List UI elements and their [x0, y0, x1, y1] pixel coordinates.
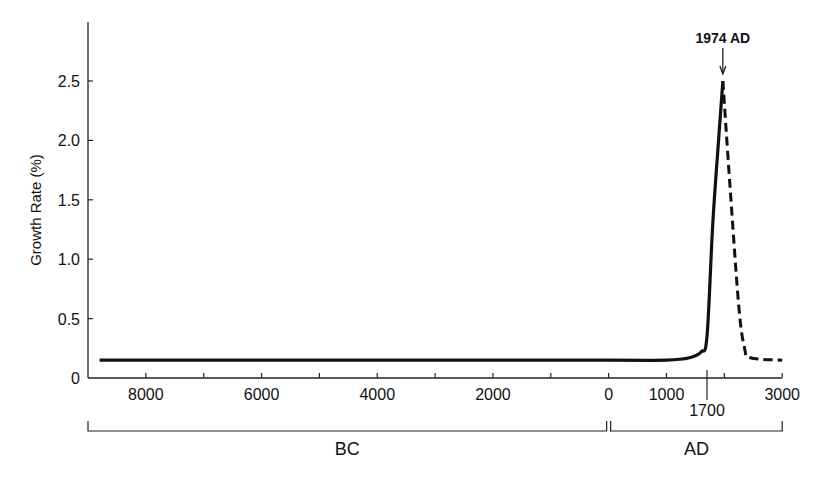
y-tick-label: 0.5 — [58, 311, 80, 328]
era-brackets: BCAD — [88, 421, 782, 459]
y-tick-label: 2.5 — [58, 73, 80, 90]
x-tick-label: 1700 — [689, 402, 725, 419]
era-label: AD — [684, 439, 709, 459]
x-tick-label: 6000 — [244, 386, 280, 403]
era-label: BC — [335, 439, 360, 459]
x-tick-label: 1000 — [649, 386, 685, 403]
y-tick-label: 2.0 — [58, 132, 80, 149]
data-series — [100, 81, 783, 360]
growth-rate-chart: 00.51.01.52.02.5 80006000400020000100017… — [0, 0, 822, 479]
y-axis: 00.51.01.52.02.5 — [58, 22, 93, 387]
x-tick-label: 3000 — [764, 386, 800, 403]
x-axis: 80006000400020000100017003000 — [88, 370, 800, 419]
x-tick-label: 2000 — [475, 386, 511, 403]
x-tick-label: 0 — [604, 386, 613, 403]
y-tick-label: 1.5 — [58, 192, 80, 209]
historical-line — [100, 81, 723, 360]
y-tick-label: 0 — [71, 370, 80, 387]
projected-line — [723, 81, 782, 360]
x-tick-label: 8000 — [128, 386, 164, 403]
x-tick-label: 4000 — [359, 386, 395, 403]
annotation-label: 1974 AD — [695, 30, 750, 46]
y-axis-label: Growth Rate (%) — [27, 154, 44, 266]
peak-annotation: 1974 AD — [695, 30, 750, 74]
y-tick-label: 1.0 — [58, 251, 80, 268]
